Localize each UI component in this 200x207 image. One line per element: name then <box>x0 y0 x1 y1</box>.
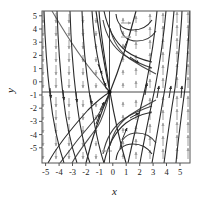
x-tick-label: 5 <box>178 168 182 177</box>
y-tick-label: 1 <box>26 64 37 73</box>
x-axis-title: x <box>112 186 117 197</box>
x-tick-label: 3 <box>151 168 155 177</box>
phase-portrait-figure: -5 -4 -3 -2 -1 0 1 2 3 4 5 5 4 3 2 1 0 -… <box>0 0 200 207</box>
y-tick-label: 3 <box>26 38 37 47</box>
x-tick-label: 2 <box>138 168 142 177</box>
x-tick-label: -5 <box>42 168 49 177</box>
x-tick-label: -1 <box>96 168 103 177</box>
y-axis-title: y <box>5 88 16 93</box>
x-tick-label: 0 <box>111 168 115 177</box>
saddle-equilibrium-point <box>107 90 111 94</box>
x-tick-label: -2 <box>82 168 89 177</box>
y-tick-label: -1 <box>24 91 37 100</box>
y-tick-label: 4 <box>26 25 37 34</box>
x-tick-label: -4 <box>56 168 63 177</box>
x-tick-label: -3 <box>69 168 76 177</box>
y-tick-label: -4 <box>24 130 37 139</box>
y-tick-label: 0 <box>26 78 37 87</box>
y-tick-label: -3 <box>24 117 37 126</box>
y-tick-label: -5 <box>24 144 37 153</box>
y-tick-label: -2 <box>24 104 37 113</box>
x-tick-label: 4 <box>164 168 168 177</box>
x-tick-label: 1 <box>124 168 128 177</box>
y-tick-label: 2 <box>26 51 37 60</box>
y-tick-label: 5 <box>26 12 37 21</box>
plot-background <box>42 11 190 163</box>
